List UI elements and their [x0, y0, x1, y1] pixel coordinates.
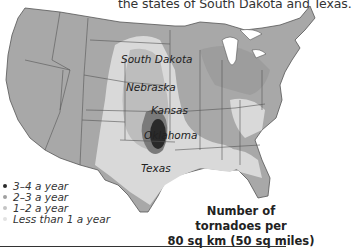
- units-caption: Number of tornadoes per 80 sq km (50 sq …: [138, 204, 344, 249]
- legend-swatch-less-than-1: [3, 217, 7, 221]
- label-south-dakota: South Dakota: [121, 53, 192, 65]
- label-kansas: Kansas: [151, 104, 188, 116]
- legend-label: Less than 1 a year: [13, 213, 110, 225]
- legend-item-1-2: 1–2 a year: [3, 202, 110, 213]
- legend-item-2-3: 2–3 a year: [3, 191, 110, 202]
- legend-swatch-3-4: [3, 184, 7, 188]
- divider-rule: [0, 246, 286, 247]
- label-nebraska: Nebraska: [126, 81, 176, 93]
- legend-swatch-1-2: [3, 206, 7, 210]
- legend: 3–4 a year 2–3 a year 1–2 a year Less th…: [3, 180, 110, 224]
- legend-item-less-than-1: Less than 1 a year: [3, 213, 110, 224]
- legend-item-3-4: 3–4 a year: [3, 180, 110, 191]
- units-line-1: Number of: [138, 204, 344, 219]
- label-oklahoma: Oklahoma: [144, 129, 197, 141]
- label-texas: Texas: [141, 162, 171, 174]
- units-line-2: tornadoes per: [138, 219, 344, 234]
- legend-swatch-2-3: [3, 195, 7, 199]
